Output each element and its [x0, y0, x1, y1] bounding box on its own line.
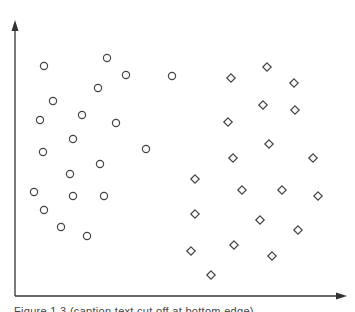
circle-marker-icon	[39, 148, 46, 155]
circle-marker-icon	[49, 97, 56, 104]
circle-marker-icon	[40, 206, 47, 213]
circle-marker-icon	[94, 84, 101, 91]
diamond-marker-icon	[294, 226, 302, 234]
circle-marker-icon	[69, 135, 76, 142]
diamond-marker-icon	[227, 74, 235, 82]
diamond-marker-icon	[263, 63, 271, 71]
diamond-marker-icon	[229, 154, 237, 162]
circle-marker-icon	[96, 160, 103, 167]
circle-marker-icon	[36, 116, 43, 123]
figure-caption: Figure 1.3 (caption text cut off at bott…	[14, 303, 354, 312]
circle-marker-icon	[142, 145, 149, 152]
diamond-marker-icon	[309, 154, 317, 162]
circle-series	[30, 54, 175, 239]
scatter-plot	[0, 0, 355, 312]
circle-marker-icon	[100, 192, 107, 199]
diamond-marker-icon	[191, 175, 199, 183]
diamond-marker-icon	[290, 79, 298, 87]
diamond-marker-icon	[278, 186, 286, 194]
diamond-marker-icon	[256, 216, 264, 224]
circle-marker-icon	[78, 111, 85, 118]
circle-marker-icon	[40, 62, 47, 69]
diamond-marker-icon	[238, 186, 246, 194]
diamond-marker-icon	[230, 241, 238, 249]
circle-marker-icon	[83, 232, 90, 239]
diamond-series	[187, 63, 322, 279]
circle-marker-icon	[57, 223, 64, 230]
x-axis-arrow-icon	[336, 293, 347, 300]
circle-marker-icon	[122, 71, 129, 78]
diamond-marker-icon	[207, 271, 215, 279]
diamond-marker-icon	[224, 118, 232, 126]
diamond-marker-icon	[187, 247, 195, 255]
diamond-marker-icon	[314, 192, 322, 200]
y-axis-arrow-icon	[12, 20, 19, 31]
axes	[12, 20, 348, 300]
diamond-marker-icon	[191, 210, 199, 218]
diamond-marker-icon	[291, 106, 299, 114]
diamond-marker-icon	[268, 252, 276, 260]
circle-marker-icon	[30, 188, 37, 195]
circle-marker-icon	[66, 170, 73, 177]
circle-marker-icon	[69, 192, 76, 199]
circle-marker-icon	[168, 72, 175, 79]
diamond-marker-icon	[265, 140, 273, 148]
circle-marker-icon	[112, 119, 119, 126]
circle-marker-icon	[103, 54, 110, 61]
diamond-marker-icon	[259, 101, 267, 109]
